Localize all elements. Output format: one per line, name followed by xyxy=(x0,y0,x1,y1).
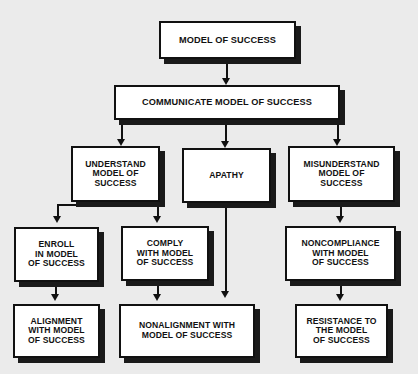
edge-understand-to-enroll-arrowhead xyxy=(53,216,61,223)
node-alignment-with-model-of-success-label: ALIGNMENT WITH MODEL OF SUCCESS xyxy=(28,317,85,346)
node-nonalignment-with-model-of-success[interactable]: NONALIGNMENT WITH MODEL OF SUCCESS xyxy=(119,304,255,358)
node-apathy[interactable]: APATHY xyxy=(182,148,271,203)
node-alignment-with-model-of-success[interactable]: ALIGNMENT WITH MODEL OF SUCCESS xyxy=(13,304,100,358)
node-nonalignment-with-model-of-success-label: NONALIGNMENT WITH MODEL OF SUCCESS xyxy=(139,321,235,340)
node-noncompliance-with-model-of-success[interactable]: NONCOMPLIANCE WITH MODEL OF SUCCESS xyxy=(285,226,396,281)
node-misunderstand-model-of-success[interactable]: MISUNDERSTAND MODEL OF SUCCESS xyxy=(288,146,395,202)
node-apathy-label: APATHY xyxy=(209,171,244,181)
node-model-of-success[interactable]: MODEL OF SUCCESS xyxy=(159,21,296,59)
node-resistance-to-the-model-of-success-label: RESISTANCE TO THE MODEL OF SUCCESS xyxy=(306,317,376,346)
node-communicate-model-of-success-label: COMMUNICATE MODEL OF SUCCESS xyxy=(142,97,312,107)
edge-apathy-to-nonalignment-arrowhead xyxy=(221,291,229,298)
node-comply-with-model-of-success[interactable]: COMPLY WITH MODEL OF SUCCESS xyxy=(121,226,209,281)
flowchart-canvas: MODEL OF SUCCESS COMMUNICATE MODEL OF SU… xyxy=(0,0,418,374)
edge-comply-to-nonalignment-arrowhead xyxy=(153,294,161,301)
node-communicate-model-of-success[interactable]: COMMUNICATE MODEL OF SUCCESS xyxy=(114,85,340,120)
node-enroll-in-model-of-success-label: ENROLL IN MODEL OF SUCCESS xyxy=(28,240,85,269)
node-noncompliance-with-model-of-success-label: NONCOMPLIANCE WITH MODEL OF SUCCESS xyxy=(301,239,379,268)
node-misunderstand-model-of-success-label: MISUNDERSTAND MODEL OF SUCCESS xyxy=(303,160,379,189)
edge-communicate-to-understand-arrowhead xyxy=(117,139,125,146)
edge-enroll-to-alignment-arrowhead xyxy=(51,294,59,301)
edge-communicate-to-misunderstand-arrowhead xyxy=(333,139,341,146)
edge-misunderstand-to-noncompliance-arrowhead xyxy=(336,216,344,223)
node-comply-with-model-of-success-label: COMPLY WITH MODEL OF SUCCESS xyxy=(137,239,194,268)
node-resistance-to-the-model-of-success[interactable]: RESISTANCE TO THE MODEL OF SUCCESS xyxy=(295,304,388,358)
node-understand-model-of-success-label: UNDERSTAND MODEL OF SUCCESS xyxy=(85,160,146,189)
node-model-of-success-label: MODEL OF SUCCESS xyxy=(179,35,276,45)
edge-understand-to-comply-arrowhead xyxy=(153,216,161,223)
node-enroll-in-model-of-success[interactable]: ENROLL IN MODEL OF SUCCESS xyxy=(14,227,99,282)
edge-understand-bus xyxy=(58,204,158,206)
edge-apathy-to-nonalignment-line xyxy=(225,205,227,293)
node-understand-model-of-success[interactable]: UNDERSTAND MODEL OF SUCCESS xyxy=(71,146,160,202)
edge-communicate-to-apathy-arrowhead xyxy=(221,141,229,148)
edge-noncompliance-to-resistance-arrowhead xyxy=(336,294,344,301)
edge-communicate-bus xyxy=(122,122,338,124)
edge-model-to-communicate-arrowhead xyxy=(222,78,230,85)
